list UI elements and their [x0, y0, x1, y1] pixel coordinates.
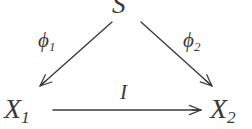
node-x1: X1 — [4, 95, 30, 126]
edge-label-i: I — [120, 82, 127, 103]
node-x1-subscript: 1 — [21, 108, 30, 127]
edge-phi2-line — [141, 22, 212, 86]
edge-label-phi2-symbol: ϕ — [183, 28, 194, 52]
node-s-label: S — [112, 0, 126, 19]
node-s: S — [112, 0, 126, 18]
node-x2: X2 — [210, 95, 236, 126]
edge-label-phi2-subscript: 2 — [194, 39, 201, 54]
node-x2-subscript: 2 — [227, 108, 236, 127]
commutative-diagram: S X1 X2 ϕ1 ϕ2 I — [0, 0, 252, 129]
node-x1-label: X — [4, 93, 21, 124]
edge-label-i-symbol: I — [120, 80, 127, 104]
edge-label-phi1-subscript: 1 — [49, 39, 56, 54]
edge-label-phi1: ϕ1 — [38, 30, 55, 53]
node-x2-label: X — [210, 93, 227, 124]
edge-label-phi2: ϕ2 — [183, 30, 200, 53]
edge-label-phi1-symbol: ϕ — [38, 28, 49, 52]
